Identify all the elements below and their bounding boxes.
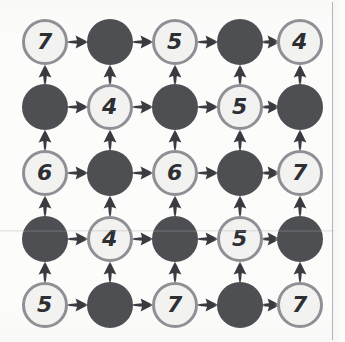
node-r2c1 (22, 84, 68, 130)
node-r1c4 (217, 19, 263, 65)
node-value-label: 4 (292, 31, 308, 53)
arrow-up-icon (38, 195, 52, 217)
arrow-up-icon (38, 129, 52, 151)
node-r3c1: 6 (22, 150, 68, 196)
node-r3c5: 7 (277, 150, 323, 196)
arrow-up-icon (168, 195, 182, 217)
node-r5c1: 5 (22, 282, 68, 328)
node-value-label: 7 (37, 31, 53, 53)
arrow-up-icon (233, 195, 247, 217)
node-r3c2 (87, 150, 133, 196)
arrow-up-icon (293, 195, 307, 217)
node-r4c1 (22, 216, 68, 262)
arrow-up-icon (168, 64, 182, 86)
arrow-up-icon (233, 64, 247, 86)
arrow-right-icon (197, 298, 219, 312)
arrow-right-icon (132, 35, 154, 49)
node-r3c4 (217, 150, 263, 196)
node-value-label: 5 (232, 96, 248, 118)
arrow-right-icon (132, 298, 154, 312)
node-r2c2: 4 (87, 84, 133, 130)
node-r1c5: 4 (277, 19, 323, 65)
node-value-label: 6 (167, 162, 183, 184)
arrow-right-icon (197, 166, 219, 180)
node-r1c1: 7 (22, 19, 68, 65)
arrow-up-icon (38, 261, 52, 283)
node-r5c4 (217, 282, 263, 328)
arrow-right-icon (132, 232, 154, 246)
node-r5c2 (87, 282, 133, 328)
arrow-right-icon (67, 232, 89, 246)
node-value-label: 4 (102, 96, 118, 118)
arrow-up-icon (293, 129, 307, 151)
page-edge-margin (333, 0, 345, 342)
arrow-up-icon (233, 129, 247, 151)
node-value-label: 6 (37, 162, 53, 184)
node-value-label: 7 (292, 294, 308, 316)
arrow-right-icon (67, 100, 89, 114)
node-r4c2: 4 (87, 216, 133, 262)
arrow-up-icon (168, 129, 182, 151)
node-r3c3: 6 (152, 150, 198, 196)
node-value-label: 5 (37, 294, 53, 316)
arrow-up-icon (103, 261, 117, 283)
arrow-up-icon (293, 261, 307, 283)
arrow-right-icon (132, 100, 154, 114)
arrow-right-icon (197, 232, 219, 246)
scan-artifact-line-secondary (0, 231, 345, 232)
arrow-right-icon (67, 166, 89, 180)
arrow-up-icon (38, 64, 52, 86)
node-r2c3 (152, 84, 198, 130)
grid-graph: 7544566745577 (0, 0, 345, 342)
node-value-label: 5 (167, 31, 183, 53)
arrow-up-icon (103, 195, 117, 217)
arrow-up-icon (293, 64, 307, 86)
node-r1c3: 5 (152, 19, 198, 65)
node-value-label: 7 (292, 162, 308, 184)
arrow-up-icon (233, 261, 247, 283)
node-r5c5: 7 (277, 282, 323, 328)
arrow-right-icon (132, 166, 154, 180)
arrow-up-icon (168, 261, 182, 283)
node-r2c5 (277, 84, 323, 130)
node-r2c4: 5 (217, 84, 263, 130)
node-r5c3: 7 (152, 282, 198, 328)
arrow-right-icon (67, 298, 89, 312)
arrow-up-icon (103, 129, 117, 151)
scanned-figure-sheet: 7544566745577 (0, 0, 345, 342)
arrow-right-icon (197, 35, 219, 49)
node-r4c5 (277, 216, 323, 262)
node-r1c2 (87, 19, 133, 65)
arrow-right-icon (197, 100, 219, 114)
arrow-right-icon (67, 35, 89, 49)
node-r4c3 (152, 216, 198, 262)
arrow-up-icon (103, 64, 117, 86)
node-value-label: 7 (167, 294, 183, 316)
node-r4c4: 5 (217, 216, 263, 262)
